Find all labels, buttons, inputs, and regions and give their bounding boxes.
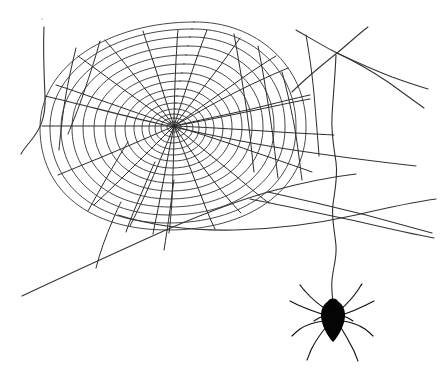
canvas-background: [0, 0, 446, 378]
spider-head: [328, 299, 339, 308]
spider-web-illustration: [0, 0, 446, 378]
web-canvas: [0, 0, 446, 378]
paper-speck: [41, 18, 43, 20]
